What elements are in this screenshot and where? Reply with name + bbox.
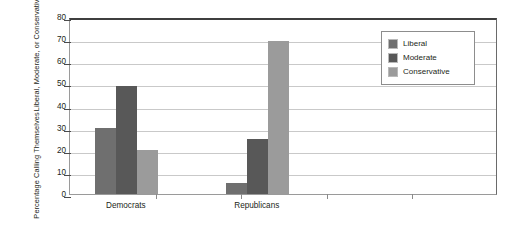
y-axis-tick-label: 60 xyxy=(44,58,66,66)
y-axis-tick-mark xyxy=(64,153,71,154)
y-axis-tick-label: 40 xyxy=(44,103,66,111)
y-axis-tick-labels: 01020304050607080 xyxy=(40,0,66,225)
y-axis-tick-mark xyxy=(64,42,71,43)
legend-label: Moderate xyxy=(403,53,437,63)
legend-item-liberal[interactable]: Liberal xyxy=(388,37,468,51)
y-axis-tick-mark xyxy=(64,86,71,87)
legend-item-conservative[interactable]: Conservative xyxy=(388,65,468,79)
bar-chart-figure: Percentage Calling Themselves Liberal, M… xyxy=(0,0,509,225)
y-axis-tick-label: 80 xyxy=(44,14,66,22)
bar-democrats-moderate xyxy=(116,86,137,194)
y-axis-tick-mark xyxy=(64,109,71,110)
y-axis-tick-label: 70 xyxy=(44,36,66,44)
legend-item-moderate[interactable]: Moderate xyxy=(388,51,468,65)
y-axis-tick-label: 50 xyxy=(44,80,66,88)
legend-swatch-moderate-icon xyxy=(388,53,398,63)
y-axis-tick-mark xyxy=(64,175,71,176)
chart-legend: LiberalModerateConservative xyxy=(381,31,475,85)
bar-republicans-liberal xyxy=(226,183,247,194)
legend-swatch-conservative-icon xyxy=(388,67,398,77)
y-axis-tick-mark xyxy=(64,197,71,198)
x-axis-tick-mark xyxy=(156,194,157,199)
y-axis-tick-mark xyxy=(64,20,71,21)
bar-republicans-moderate xyxy=(247,139,268,194)
bar-republicans-conservative xyxy=(268,41,289,194)
x-axis-category-label-democrats: Democrats xyxy=(106,201,146,210)
y-axis-tick-label: 20 xyxy=(44,147,66,155)
legend-label: Liberal xyxy=(403,39,427,49)
y-axis-tick-label: 0 xyxy=(44,191,66,199)
x-axis-tick-mark xyxy=(327,194,328,199)
bar-democrats-conservative xyxy=(137,150,158,194)
x-axis-category-label-republicans: Republicans xyxy=(234,201,279,210)
legend-label: Conservative xyxy=(403,67,450,77)
y-axis-tick-mark xyxy=(64,64,71,65)
y-axis-tick-label: 30 xyxy=(44,125,66,133)
bar-democrats-liberal xyxy=(95,128,116,194)
legend-swatch-liberal-icon xyxy=(388,39,398,49)
y-axis-tick-label: 10 xyxy=(44,169,66,177)
x-axis-tick-mark xyxy=(241,194,242,199)
x-axis-tick-mark xyxy=(412,194,413,199)
y-axis-tick-mark xyxy=(64,131,71,132)
